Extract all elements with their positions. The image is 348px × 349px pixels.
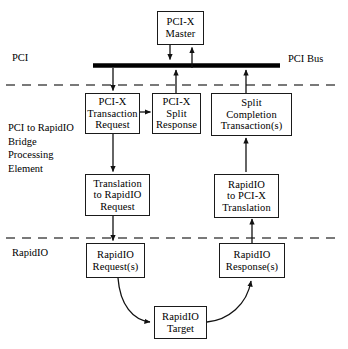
box-translation-to-rapidio-request-line-1: to RapidIO (94, 189, 142, 201)
box-pci-x-split-response-line-2: Response (156, 119, 197, 131)
box-pci-x-transaction-request[interactable]: PCI-X Transaction Request (85, 93, 140, 134)
box-rapidio-target-line-1: Target (167, 323, 194, 335)
region-label-bridge: PCI to RapidIO Bridge Processing Element (8, 121, 74, 175)
pci-bus-label: PCI Bus (288, 53, 323, 64)
box-pci-x-master[interactable]: PCI-X Master (157, 11, 204, 45)
box-translation-to-rapidio-request[interactable]: Translation to RapidIO Request (85, 174, 150, 216)
connector-rapidio-request-to-target (118, 278, 150, 322)
region-label-bridge-line-0: PCI to RapidIO (8, 121, 74, 135)
region-label-rapidio: RapidIO (12, 246, 48, 260)
box-pci-x-master-line-0: PCI-X (167, 16, 195, 28)
box-translation-to-rapidio-request-line-0: Translation (93, 178, 142, 190)
box-rapidio-requests[interactable]: RapidIO Request(s) (86, 243, 145, 278)
box-split-completion-transactions[interactable]: Split Completion Transaction(s) (211, 93, 292, 136)
region-label-bridge-line-2: Processing (8, 148, 74, 162)
region-label-bridge-line-3: Element (8, 162, 74, 176)
box-pci-x-split-response[interactable]: PCI-X Split Response (152, 93, 201, 134)
box-rapidio-requests-line-1: Request(s) (93, 261, 139, 273)
box-pci-x-transaction-request-line-0: PCI-X (99, 96, 127, 108)
region-label-bridge-line-1: Bridge (8, 135, 74, 149)
box-rapidio-responses-line-0: RapidIO (234, 249, 271, 261)
box-rapidio-requests-line-0: RapidIO (97, 249, 134, 261)
box-pci-x-split-response-line-1: Split (166, 108, 186, 120)
box-split-completion-transactions-line-2: Transaction(s) (221, 120, 283, 132)
box-split-completion-transactions-line-0: Split (241, 97, 261, 109)
box-rapidio-responses-line-1: Response(s) (226, 261, 278, 273)
box-pci-x-transaction-request-line-2: Request (95, 119, 130, 131)
box-pci-x-split-response-line-0: PCI-X (163, 96, 191, 108)
box-rapidio-to-pci-x-translation-line-2: Translation (222, 202, 271, 214)
region-label-pci-line-0: PCI (12, 51, 28, 65)
box-pci-x-transaction-request-line-1: Transaction (87, 108, 137, 120)
box-rapidio-responses[interactable]: RapidIO Response(s) (219, 243, 285, 278)
region-label-pci: PCI (12, 51, 28, 65)
box-rapidio-to-pci-x-translation-line-0: RapidIO (228, 179, 265, 191)
box-split-completion-transactions-line-1: Completion (226, 109, 277, 121)
box-rapidio-target-line-0: RapidIO (162, 311, 199, 323)
region-label-rapidio-line-0: RapidIO (12, 246, 48, 260)
box-rapidio-target[interactable]: RapidIO Target (154, 306, 207, 339)
box-translation-to-rapidio-request-line-2: Request (100, 201, 135, 213)
connector-rapidio-target-to-response (207, 281, 251, 322)
box-rapidio-to-pci-x-translation[interactable]: RapidIO to PCI-X Translation (214, 174, 279, 218)
box-pci-x-master-line-1: Master (166, 28, 196, 40)
box-rapidio-to-pci-x-translation-line-1: to PCI-X (227, 190, 266, 202)
pci-rapidio-bridge-diagram: PCI-X Master PCI-X Transaction Request P… (0, 0, 348, 349)
